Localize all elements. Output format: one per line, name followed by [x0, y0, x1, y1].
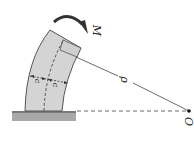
- curved-beam-diagram: [0, 0, 194, 153]
- center-label: O: [183, 117, 194, 126]
- moment-label: M: [91, 25, 102, 36]
- c-label-left: c: [33, 79, 41, 83]
- radius-label: ρ: [119, 76, 130, 82]
- c-label-right: c: [51, 83, 59, 87]
- beam-body: [25, 30, 81, 111]
- moment-arrow-icon: [54, 16, 82, 24]
- radius-line: [76, 57, 118, 76]
- center-point: [187, 109, 191, 113]
